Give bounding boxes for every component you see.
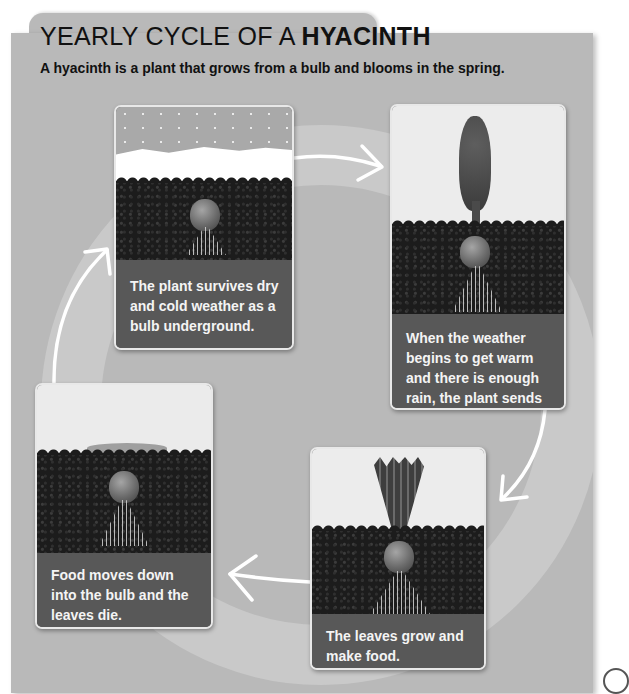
stage-caption: The plant survives dry and cold weather … (116, 260, 292, 348)
arrow-leaves-to-dieback-icon (222, 550, 312, 610)
page-subtitle: A hyacinth is a plant that grows from a … (40, 60, 505, 76)
stage-card-dieback: Food moves down into the bulb and the le… (35, 383, 213, 629)
hyacinth-flower-icon (392, 106, 564, 314)
leaves-sprouting-icon (312, 449, 484, 614)
stage-caption: Food moves down into the bulb and the le… (37, 553, 211, 627)
page-title: YEARLY CYCLE OF A HYACINTH (40, 22, 431, 51)
stage-caption: The leaves grow and make food. (312, 614, 484, 668)
stage-card-leaves: The leaves grow and make food. (310, 447, 486, 670)
arrow-dormant-to-bloom-icon (292, 140, 392, 200)
stage-card-dormant: The plant survives dry and cold weather … (114, 105, 294, 350)
arrow-dieback-to-dormant-icon (45, 240, 115, 385)
stage-card-bloom: When the weather begins to get warm and … (390, 104, 566, 410)
stage-caption: When the weather begins to get warm and … (392, 314, 564, 408)
wilted-leaves-icon (37, 385, 211, 553)
arrow-bloom-to-leaves-icon (495, 408, 575, 508)
bulb-under-snow-icon (116, 107, 292, 260)
title-prefix: YEARLY CYCLE OF A (40, 22, 302, 50)
title-emphasis: HYACINTH (302, 22, 431, 50)
page-corner-circle-icon (603, 668, 629, 694)
